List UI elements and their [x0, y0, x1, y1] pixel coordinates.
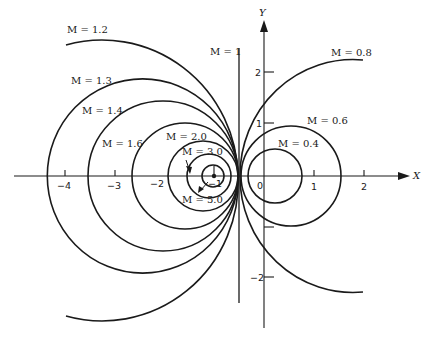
y-tick-1: 1	[256, 118, 262, 129]
m-circles-diagram: M = 1.2 M = 1.3 M = 1.4 M = 1.6 M = 2.0 …	[0, 0, 433, 339]
label-m50: M = 5.0	[182, 194, 223, 205]
label-m08: M = 0.8	[331, 47, 372, 58]
x-tick-2: 2	[361, 181, 367, 192]
label-m30: M = 3.0	[182, 146, 223, 157]
x-tick-0: 0	[257, 180, 263, 191]
y-axis-label: Y	[259, 7, 267, 18]
label-m16: M = 1.6	[102, 138, 143, 149]
label-m14: M = 1.4	[82, 105, 123, 116]
label-m06: M = 0.6	[307, 115, 348, 126]
y-axis-arrow-icon	[260, 20, 268, 32]
x-tick-1: 1	[311, 181, 317, 192]
x-tick-m3: −3	[107, 180, 121, 191]
y-tick-m2: −2	[250, 272, 264, 283]
x-tick-m4: −4	[57, 180, 71, 191]
x-tick-m2: −2	[150, 178, 164, 189]
x-tick-m1: −1	[208, 178, 222, 189]
label-m13: M = 1.3	[71, 75, 112, 86]
label-m12: M = 1.2	[67, 24, 108, 35]
x-axis-label: X	[412, 170, 421, 181]
label-m04: M = 0.4	[278, 138, 319, 149]
label-m1: M = 1	[210, 46, 241, 57]
label-m20: M = 2.0	[166, 131, 207, 142]
y-tick-2: 2	[255, 67, 261, 78]
x-axis-arrow-icon	[398, 172, 410, 180]
